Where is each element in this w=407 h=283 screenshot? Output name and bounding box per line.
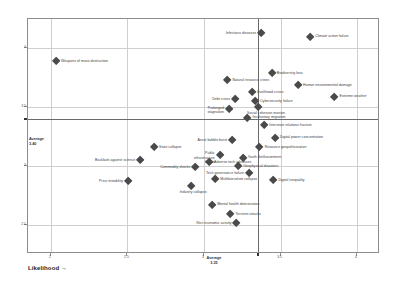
y-average-tag: Average 3.40 (29, 137, 44, 147)
risk-point-label: Weapons of mass destruction (61, 59, 108, 63)
x-tick-label: 3.5 (268, 255, 292, 259)
y-average-value: 3.40 (29, 142, 44, 147)
risk-point-label: Commodity shocks (160, 165, 190, 169)
risk-point-label: State collapse (159, 145, 181, 149)
x-average-value: 3.35 (197, 261, 231, 266)
y-average-tickmark (24, 118, 27, 120)
x-gridline (127, 19, 128, 252)
risk-point-label: Digital inequality (278, 178, 304, 182)
risk-point-label: Cybersecurity failure (260, 99, 293, 103)
risk-point-label: Adverse tech advances (214, 160, 251, 164)
risk-point-label: Climate action failure (315, 34, 348, 38)
risk-point-label: Backlash against science (95, 158, 135, 162)
risk-point-label: Prolonged stagnation (198, 106, 224, 115)
risk-point-label: Tech governance failure (206, 171, 244, 175)
risk-point-label: Human environmental damage (303, 83, 352, 87)
risk-matrix-chart: Impact → Likelihood → 22.533.542.533.54 … (0, 0, 407, 283)
risk-point-label: Youth disillusionment (248, 155, 282, 159)
y-gridline (28, 166, 378, 167)
x-tick-label: 4 (344, 255, 368, 259)
risk-point-label: Debt crises (212, 97, 230, 101)
x-gridline (204, 19, 205, 252)
risk-point-label: Resource geopoliticization (265, 145, 307, 149)
risk-point-label: Interstate relations fracture (269, 123, 312, 127)
risk-point-label: Industry collapse (180, 190, 207, 194)
risk-point-label: Price instability (99, 179, 123, 183)
risk-point-label: Mental health deterioration (217, 202, 259, 206)
risk-point-label: Terrorist attacks (236, 212, 261, 216)
x-average-tickmark (257, 253, 259, 256)
x-gridline (51, 19, 52, 252)
y-gridline (28, 48, 378, 49)
y-tick-label: 3 (8, 163, 26, 167)
risk-point-label: Biodiversity loss (277, 71, 303, 75)
x-axis-title: Likelihood → (28, 265, 67, 271)
risk-point-label: Asset bubble burst (197, 138, 227, 142)
x-average-tag: Average 3.35 (197, 256, 231, 266)
y-average-line (28, 119, 378, 120)
plot-area (27, 18, 379, 253)
risk-point-label: Involuntary migration (252, 115, 285, 119)
risk-point-label: Extreme weather (340, 94, 367, 98)
risk-point-label: Digital power concentration (280, 135, 323, 139)
y-tick-label: 4 (8, 45, 26, 49)
y-tick-label: 2.5 (8, 222, 26, 226)
x-average-line (258, 19, 259, 252)
risk-point-label: Multilateralism collapse (220, 177, 257, 181)
risk-point-label: Natural resource crises (232, 78, 269, 82)
y-tick-label: 3.5 (8, 104, 26, 108)
x-gridline (357, 19, 358, 252)
risk-point-label: Infectious diseases (226, 31, 256, 35)
x-tick-label: 2 (38, 255, 62, 259)
x-tick-label: 2.5 (114, 255, 138, 259)
risk-point-label: Illicit economic activity (196, 221, 231, 225)
risk-point-label: Livelihood crises (257, 90, 283, 94)
